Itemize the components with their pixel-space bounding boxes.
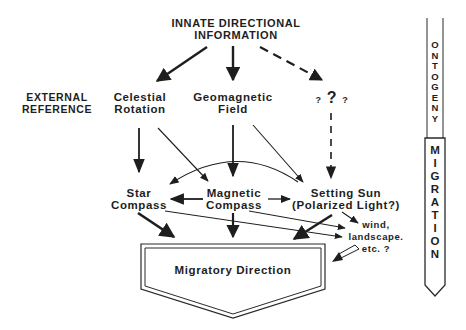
title-line-2: INFORMATION: [170, 29, 302, 41]
migratory-direction-label: Migratory Direction: [163, 264, 303, 276]
arrow-innate-to-unknown-dashed: [260, 47, 322, 80]
migration-letter: O: [425, 235, 445, 248]
unknown-question-big: ?: [327, 89, 337, 106]
other-cues-line-1: wind,: [346, 219, 406, 231]
external-reference-line-1: EXTERNAL: [17, 91, 97, 103]
arrow-innate-to-celestial: [157, 47, 207, 81]
ontogeny-label: O N T O G E N Y: [427, 40, 443, 124]
other-cues-line-2: landscape.: [346, 231, 406, 243]
star-compass-line-2: Compass: [108, 199, 170, 211]
magnetic-compass-node: Magnetic Compass: [202, 187, 266, 211]
migration-letter: A: [425, 196, 445, 209]
external-reference-label: EXTERNAL REFERENCE: [17, 91, 97, 115]
unknown-reference-node: ? ? ?: [312, 90, 352, 108]
ontogeny-letter: G: [427, 82, 443, 93]
ontogeny-letter: Y: [427, 114, 443, 125]
unknown-question-small-left: ?: [316, 95, 322, 105]
external-reference-line-2: REFERENCE: [17, 103, 97, 115]
arrow-geomagnetic-to-sun: [253, 125, 303, 182]
migratory-direction-box-outer: [141, 244, 325, 318]
migration-letter: M: [425, 144, 445, 157]
arrow-sun-to-star-arc: [170, 161, 298, 184]
celestial-line-2: Rotation: [107, 103, 173, 115]
setting-sun-line-1: Setting Sun: [290, 187, 402, 199]
arrow-sun-to-direction: [294, 215, 332, 239]
migration-letter: T: [425, 209, 445, 222]
setting-sun-node: Setting Sun (Polarized Light?): [290, 187, 402, 211]
ontogeny-letter: N: [427, 103, 443, 114]
ontogeny-letter: O: [427, 40, 443, 51]
setting-sun-line-2: (Polarized Light?): [290, 199, 402, 211]
other-cues-line-3: etc. ?: [346, 243, 406, 255]
magnetic-compass-line-1: Magnetic: [202, 187, 266, 199]
magnetic-compass-line-2: Compass: [202, 199, 266, 211]
migration-letter: I: [425, 157, 445, 170]
celestial-rotation-node: Celestial Rotation: [107, 91, 173, 115]
celestial-line-1: Celestial: [107, 91, 173, 103]
arrow-star-to-direction: [138, 213, 174, 237]
geomagnetic-line-1: Geomagnetic: [188, 91, 278, 103]
title-line-1: INNATE DIRECTIONAL: [170, 17, 302, 29]
innate-directional-information-title: INNATE DIRECTIONAL INFORMATION: [170, 17, 302, 41]
migration-letter: R: [425, 183, 445, 196]
star-compass-line-1: Star: [108, 187, 170, 199]
geomagnetic-field-node: Geomagnetic Field: [188, 91, 278, 115]
arrow-celestial-to-magnetic: [158, 128, 208, 181]
migration-letter: G: [425, 170, 445, 183]
migration-label: M I G R A T I O N: [425, 144, 445, 261]
migration-letter: N: [425, 248, 445, 261]
other-cues-node: wind, landscape. etc. ?: [346, 219, 406, 255]
geomagnetic-line-2: Field: [188, 103, 278, 115]
star-compass-node: Star Compass: [108, 187, 170, 211]
unknown-question-small-right: ?: [342, 95, 348, 105]
migration-letter: I: [425, 222, 445, 235]
ontogeny-letter: T: [427, 61, 443, 72]
diagram-arrows: [0, 0, 466, 330]
